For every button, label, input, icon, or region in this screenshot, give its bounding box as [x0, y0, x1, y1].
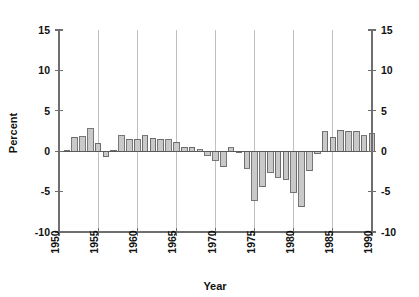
bar [283, 151, 289, 179]
bar [252, 151, 258, 200]
y-axis-title: Percent [7, 112, 19, 153]
y-tick-label-right: 15 [381, 24, 393, 36]
y-axis-right-labels: 151050-5-10 [381, 24, 396, 238]
x-tick-label: 1955 [88, 230, 100, 254]
y-tick-label-right: 5 [381, 105, 387, 117]
bar [181, 147, 187, 151]
y-tick-label-left: 0 [44, 145, 50, 157]
y-tick-label-left: 10 [38, 64, 50, 76]
bar [307, 151, 313, 170]
x-tick-label: 1985 [323, 230, 335, 254]
bar [260, 151, 266, 187]
bar [354, 131, 360, 151]
bar [361, 136, 367, 151]
bar [103, 151, 109, 157]
bar [244, 151, 250, 168]
x-tick-label: 1960 [127, 230, 139, 254]
bar [119, 136, 125, 151]
x-tick-label: 1970 [206, 230, 218, 254]
bar [95, 143, 101, 151]
y-tick-label-left: 5 [44, 105, 50, 117]
y-tick-label-left: -5 [41, 185, 50, 197]
chart-container: 151050-5-10 151050-5-10 1950195519601965… [0, 0, 419, 297]
bar [275, 151, 281, 177]
bar [158, 139, 164, 151]
y-tick-label-left: -10 [35, 226, 50, 238]
bar [267, 151, 273, 172]
bar [346, 131, 352, 151]
x-axis-title: Year [203, 280, 227, 292]
y-tick-label-right: -5 [381, 185, 390, 197]
x-axis-labels: 195019551960196519701975198019851990 [49, 230, 374, 254]
x-tick-label: 1950 [49, 230, 61, 254]
x-tick-label: 1975 [245, 230, 257, 254]
bar [80, 137, 86, 152]
bar [150, 138, 156, 151]
bar [322, 132, 328, 151]
bar [134, 139, 140, 151]
bar [174, 142, 180, 151]
bar [213, 151, 219, 160]
bar [205, 151, 211, 155]
x-tick-label: 1965 [166, 230, 178, 254]
gridlines-layer [98, 30, 333, 232]
bar [166, 140, 172, 151]
bars-layer [64, 129, 375, 207]
bar [291, 151, 297, 192]
y-tick-label-right: -10 [381, 226, 396, 238]
bar [72, 137, 78, 151]
y-axis-left-labels: 151050-5-10 [35, 24, 50, 238]
bar-chart: 151050-5-10 151050-5-10 1950195519601965… [0, 0, 419, 297]
y-tick-label-right: 0 [381, 145, 387, 157]
bar [127, 139, 133, 151]
bar [299, 151, 305, 207]
bar [88, 129, 94, 152]
y-tick-label-left: 15 [38, 24, 50, 36]
x-tick-label: 1980 [284, 230, 296, 254]
bar [142, 136, 148, 151]
y-tick-label-right: 10 [381, 64, 393, 76]
bar [189, 147, 195, 151]
bar [330, 137, 336, 151]
bar [338, 130, 344, 151]
x-tick-label: 1990 [362, 230, 374, 254]
bar [221, 151, 227, 166]
